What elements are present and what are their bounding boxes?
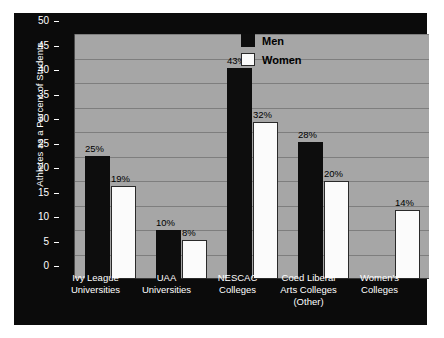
y-tick-mark-0: [54, 266, 59, 267]
gridline-30: [75, 132, 429, 133]
y-tick-label-35: 35: [14, 89, 49, 100]
bar-women-2: [253, 122, 278, 279]
category-label-line: Women's: [334, 272, 425, 284]
gridline-35: [75, 108, 429, 109]
legend-label-women: Women: [262, 54, 302, 66]
legend-swatch-women: [241, 53, 255, 66]
y-tick-mark-20: [54, 168, 59, 169]
plot-area: 25%19%10%8%43%32%28%20%14%: [74, 34, 429, 279]
y-tick-mark-30: [54, 119, 59, 120]
bar-value-men-0: 25%: [85, 143, 124, 154]
y-tick-mark-15: [54, 193, 59, 194]
y-tick-label-45: 45: [14, 40, 49, 51]
y-tick-label-10: 10: [14, 211, 49, 222]
bar-men-0: [85, 156, 110, 279]
bar-value-women-4: 14%: [395, 197, 434, 208]
gridline-40: [75, 83, 429, 84]
y-tick-mark-25: [54, 144, 59, 145]
bar-men-3: [298, 142, 323, 279]
bar-women-4: [395, 210, 420, 279]
y-tick-mark-10: [54, 217, 59, 218]
y-tick-label-0: 0: [14, 260, 49, 271]
y-tick-label-50: 50: [14, 15, 49, 26]
y-tick-mark-35: [54, 95, 59, 96]
legend-item-men[interactable]: Men: [241, 32, 351, 49]
bar-value-women-1: 8%: [182, 227, 221, 238]
y-tick-mark-50: [54, 21, 59, 22]
category-label-4: Women'sColleges: [334, 272, 425, 296]
y-tick-label-25: 25: [14, 138, 49, 149]
y-tick-mark-5: [54, 242, 59, 243]
category-label-line: Colleges: [334, 284, 425, 296]
bar-women-0: [111, 186, 136, 279]
legend-label-men: Men: [262, 35, 284, 47]
bar-value-men-3: 28%: [298, 129, 337, 140]
bar-women-3: [324, 181, 349, 279]
bar-value-women-3: 20%: [324, 168, 363, 179]
y-tick-label-40: 40: [14, 64, 49, 75]
bar-value-women-2: 32%: [253, 109, 292, 120]
y-tick-label-15: 15: [14, 187, 49, 198]
chart-legend: MenWomen: [241, 32, 351, 70]
category-label-line: (Other): [263, 296, 354, 308]
y-tick-label-30: 30: [14, 113, 49, 124]
y-tick-mark-40: [54, 70, 59, 71]
legend-swatch-men: [241, 34, 255, 47]
gridline-25: [75, 157, 429, 158]
chart-figure: Athletes as a Percent of Students 504540…: [0, 0, 444, 338]
y-tick-label-20: 20: [14, 162, 49, 173]
y-tick-mark-45: [54, 46, 59, 47]
y-tick-label-5: 5: [14, 236, 49, 247]
legend-item-women[interactable]: Women: [241, 51, 351, 68]
bar-value-women-0: 19%: [111, 173, 150, 184]
chart-panel: Athletes as a Percent of Students 504540…: [14, 13, 427, 325]
bar-men-2: [227, 68, 252, 279]
